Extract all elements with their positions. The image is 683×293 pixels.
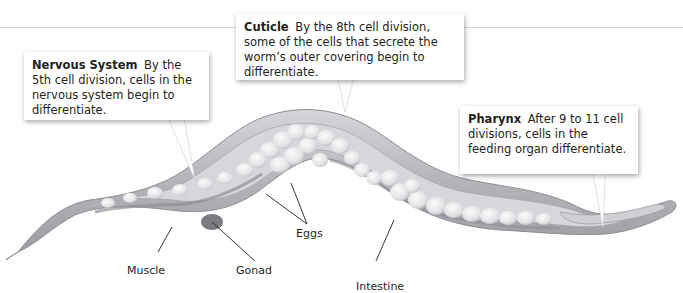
callout-pharynx: Pharynx After 9 to 11 cell divisions, ce… — [460, 106, 638, 174]
label-eggs: Eggs — [296, 227, 323, 240]
intestine-leader — [372, 220, 394, 261]
nervous-system-pointer — [168, 118, 195, 180]
callout-title: Cuticle — [244, 20, 289, 34]
label-gonad: Gonad — [236, 264, 272, 277]
label-muscle: Muscle — [127, 264, 165, 277]
gonad-leader — [212, 222, 256, 261]
muscle-leader — [158, 227, 172, 252]
label-intestine: Intestine — [356, 280, 404, 293]
callout-nervous-system: Nervous System By the 5th cell division,… — [24, 52, 209, 120]
callout-cuticle: Cuticle By the 8th cell division, some o… — [236, 14, 464, 80]
cuticle-pointer — [338, 78, 354, 112]
callout-title: Pharynx — [468, 112, 521, 126]
worm-tail — [6, 252, 18, 260]
callout-title: Nervous System — [32, 58, 137, 72]
